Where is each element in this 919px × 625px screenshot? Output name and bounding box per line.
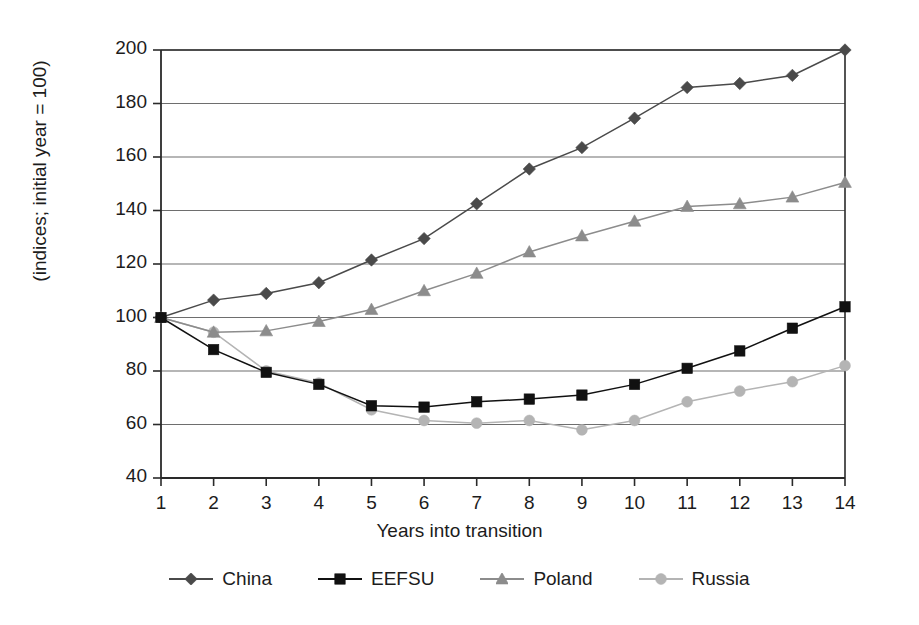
legend-marker-diamond-icon (185, 573, 197, 585)
point-marker (682, 396, 693, 407)
x-tick-label: 11 (667, 492, 707, 514)
y-tick-label: 100 (87, 305, 147, 327)
point-marker (496, 573, 508, 584)
gridlines (161, 50, 845, 478)
point-marker (629, 415, 640, 426)
series-china (155, 44, 851, 324)
point-marker (577, 390, 587, 400)
point-marker (786, 69, 798, 81)
point-marker (839, 44, 851, 56)
y-tick-label: 60 (87, 412, 147, 434)
point-marker (787, 323, 797, 333)
x-tick-label: 2 (194, 492, 234, 514)
point-marker (260, 287, 272, 299)
y-tick-label: 120 (87, 251, 147, 273)
legend-label: China (222, 568, 272, 590)
x-tick-label: 12 (720, 492, 760, 514)
point-marker (185, 573, 197, 585)
y-tick-label: 80 (87, 358, 147, 380)
point-marker (156, 312, 166, 322)
legend-marker-triangle-icon (496, 573, 508, 585)
point-marker (524, 415, 535, 426)
x-tick-label: 6 (404, 492, 444, 514)
point-marker (471, 397, 481, 407)
point-marker (418, 232, 430, 244)
point-marker (734, 77, 746, 89)
legend-label: Poland (533, 568, 592, 590)
x-tick-label: 9 (562, 492, 602, 514)
legend-item-china[interactable]: China (169, 568, 272, 590)
point-marker (629, 379, 639, 389)
point-marker (840, 360, 851, 371)
point-marker (840, 302, 850, 312)
series-line (161, 50, 845, 318)
legend-label: EEFSU (371, 568, 434, 590)
point-marker (735, 346, 745, 356)
x-tick-label: 14 (825, 492, 865, 514)
legend-swatch (480, 571, 524, 587)
point-marker (313, 277, 325, 289)
x-axis-title: Years into transition (0, 520, 919, 542)
y-tick-label: 140 (87, 198, 147, 220)
point-marker (787, 376, 798, 387)
legend-item-russia[interactable]: Russia (639, 568, 750, 590)
legend-item-eefsu[interactable]: EEFSU (318, 568, 434, 590)
x-tick-label: 13 (772, 492, 812, 514)
point-marker (470, 267, 483, 278)
axis-frame (153, 50, 845, 486)
x-tick-label: 4 (299, 492, 339, 514)
series-eefsu (156, 302, 850, 413)
point-marker (261, 367, 271, 377)
point-marker (471, 418, 482, 429)
x-tick-label: 3 (246, 492, 286, 514)
x-tick-label: 8 (509, 492, 549, 514)
chart-figure: (indices; initial year = 100) Years into… (0, 0, 919, 625)
point-marker (734, 386, 745, 397)
point-marker (682, 363, 692, 373)
point-marker (655, 574, 666, 585)
point-marker (366, 401, 376, 411)
point-marker (628, 112, 640, 124)
point-marker (470, 198, 482, 210)
point-marker (419, 415, 430, 426)
point-marker (681, 81, 693, 93)
point-marker (576, 141, 588, 153)
x-tick-label: 10 (615, 492, 655, 514)
legend-swatch (639, 571, 683, 587)
point-marker (577, 424, 588, 435)
point-marker (839, 176, 852, 187)
point-marker (524, 394, 534, 404)
chart-legend: ChinaEEFSUPolandRussia (0, 568, 919, 590)
y-tick-label: 160 (87, 144, 147, 166)
legend-marker-circle-icon (655, 573, 667, 585)
y-tick-label: 200 (87, 37, 147, 59)
x-tick-label: 5 (351, 492, 391, 514)
y-tick-label: 180 (87, 91, 147, 113)
y-tick-label: 40 (87, 465, 147, 487)
point-marker (314, 379, 324, 389)
legend-swatch (169, 571, 213, 587)
x-tick-label: 7 (457, 492, 497, 514)
legend-label: Russia (692, 568, 750, 590)
point-marker (335, 574, 345, 584)
point-marker (208, 344, 218, 354)
legend-item-poland[interactable]: Poland (480, 568, 592, 590)
y-axis-title: (indices; initial year = 100) (29, 11, 51, 331)
x-tick-label: 1 (141, 492, 181, 514)
legend-marker-square-icon (334, 573, 346, 585)
series-poland (155, 176, 852, 337)
legend-swatch (318, 571, 362, 587)
point-marker (523, 163, 535, 175)
point-marker (419, 402, 429, 412)
point-marker (207, 294, 219, 306)
point-marker (365, 303, 378, 314)
